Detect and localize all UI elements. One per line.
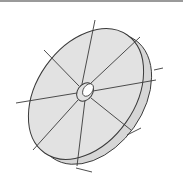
disc-illustration: [0, 0, 183, 186]
